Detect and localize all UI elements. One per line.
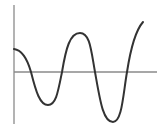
wave-diagram: [0, 0, 165, 136]
